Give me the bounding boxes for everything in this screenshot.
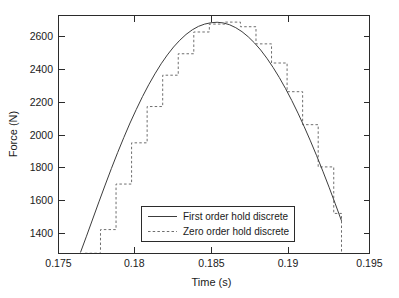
y-tick-label: 2000 bbox=[30, 129, 54, 141]
x-axis-title: Time (s) bbox=[192, 276, 232, 288]
x-tick-label: 0.175 bbox=[45, 257, 71, 269]
y-axis-title: Force (N) bbox=[7, 111, 19, 157]
x-tick-label: 0.185 bbox=[198, 257, 224, 269]
legend-label-first-order-hold: First order hold discrete bbox=[183, 211, 288, 222]
legend-label-zero-order-hold: Zero order hold discrete bbox=[183, 226, 290, 237]
y-tick-label: 2600 bbox=[30, 30, 54, 42]
x-tick-label: 0.195 bbox=[356, 257, 382, 269]
x-tick-label: 0.18 bbox=[124, 257, 145, 269]
y-tick-label: 2200 bbox=[30, 96, 54, 108]
legend: First order hold discrete Zero order hol… bbox=[142, 207, 295, 242]
y-tick-label: 1600 bbox=[30, 194, 54, 206]
y-tick-label: 2400 bbox=[30, 63, 54, 75]
y-tick-label: 1400 bbox=[30, 227, 54, 239]
force-vs-time-plot: 2600 2400 2200 2000 1800 1600 1400 0.175… bbox=[0, 0, 399, 298]
chart-figure: 2600 2400 2200 2000 1800 1600 1400 0.175… bbox=[0, 0, 399, 298]
y-tick-label: 1800 bbox=[30, 161, 54, 173]
x-tick-label: 0.19 bbox=[278, 257, 299, 269]
